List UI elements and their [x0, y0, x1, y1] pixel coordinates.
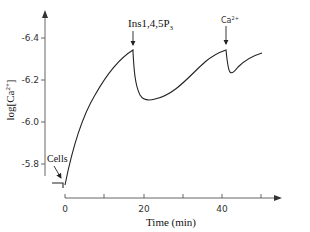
annotation-ca2plus: Ca2+ — [221, 15, 239, 44]
x-tick-label: 40 — [216, 204, 228, 214]
y-axis-title: log[Ca2+] — [4, 79, 16, 120]
y-tick-label: -5.8 — [21, 159, 39, 169]
x-tick-label: 20 — [138, 204, 150, 214]
y-tick-label: -6.4 — [21, 33, 39, 43]
svg-text:log[Ca2+]: log[Ca2+] — [4, 79, 16, 120]
y-axis-arrow-icon — [42, 10, 48, 18]
svg-text:Ins1,4,5P3: Ins1,4,5P3 — [128, 17, 174, 32]
chart: -6.4 -6.2 -6.0 -5.8 log[Ca2+] 0 20 40 Ti… — [0, 0, 310, 232]
x-axis: 0 20 40 Time (min) — [62, 194, 282, 229]
annotation-ins145p3: Ins1,4,5P3 — [128, 17, 174, 45]
svg-text:Cells: Cells — [47, 153, 68, 164]
annotation-cells: Cells — [47, 153, 68, 178]
svg-text:Ca2+: Ca2+ — [221, 15, 239, 25]
x-axis-title: Time (min) — [146, 216, 196, 229]
arrow-icon — [54, 166, 61, 178]
calcium-trace-line — [52, 50, 262, 188]
y-tick-label: -6.2 — [21, 75, 39, 85]
x-tick-label: 0 — [62, 204, 68, 214]
y-tick-label: -6.0 — [21, 117, 39, 127]
y-axis: -6.4 -6.2 -6.0 -5.8 — [21, 10, 48, 176]
x-axis-arrow-icon — [274, 195, 282, 201]
